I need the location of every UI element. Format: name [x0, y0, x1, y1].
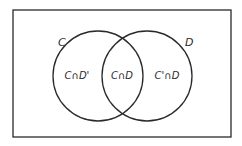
region-c-and-not-d-label: C∩D'	[65, 70, 90, 81]
set-d-label: D	[185, 36, 193, 49]
region-not-c-and-d-label: C'∩D	[155, 70, 180, 81]
region-c-and-d-label: C∩D	[111, 70, 133, 81]
set-c-label: C	[58, 36, 66, 49]
venn-diagram: C D C∩D' C∩D C'∩D	[0, 0, 242, 146]
